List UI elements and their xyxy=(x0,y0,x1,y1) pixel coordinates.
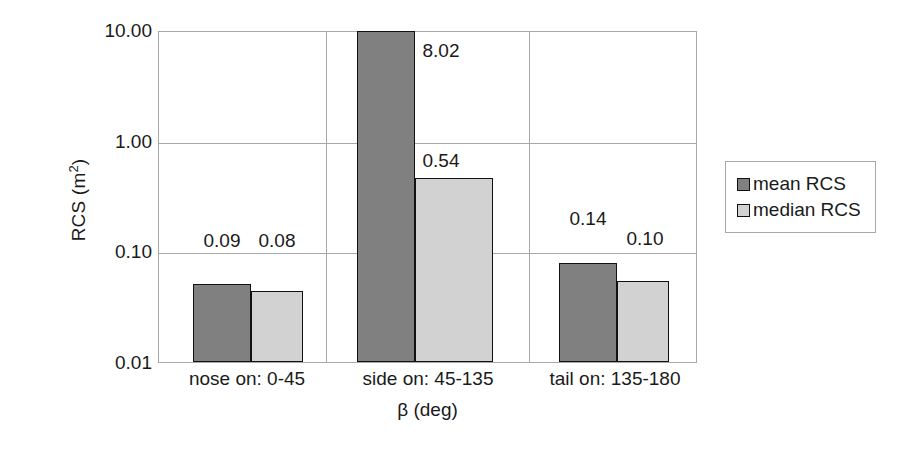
x-tick-label-side-on: side on: 45-135 xyxy=(363,368,494,390)
x-axis-tick-labels: nose on: 0-45 side on: 45-135 tail on: 1… xyxy=(158,368,697,396)
legend-swatch-median-rcs xyxy=(737,204,750,217)
category-divider-1 xyxy=(326,32,327,362)
bar-mean-tail-on[interactable] xyxy=(559,263,617,362)
category-divider-2 xyxy=(529,32,530,362)
x-tick-label-tail-on: tail on: 135-180 xyxy=(550,368,681,390)
legend-label-median-rcs: median RCS xyxy=(753,199,861,221)
bar-label-median-tail-on: 0.10 xyxy=(627,228,664,250)
y-tick-label-1: 1.00 xyxy=(66,131,152,153)
legend-label-mean-rcs: mean RCS xyxy=(753,173,846,195)
bar-mean-nose-on[interactable] xyxy=(193,284,251,362)
gridline-1 xyxy=(159,143,696,144)
legend: mean RCS median RCS xyxy=(725,161,876,233)
bar-median-tail-on[interactable] xyxy=(617,281,669,362)
plot-area: 0.09 0.08 8.02 0.54 0.14 0.10 xyxy=(158,31,697,363)
bar-median-nose-on[interactable] xyxy=(251,291,303,362)
bar-label-median-nose-on: 0.08 xyxy=(259,230,296,252)
rcs-bar-chart: RCS (m2) 10.00 1.00 0.10 0.01 0.09 0.08 … xyxy=(0,0,923,451)
x-axis-title: β (deg) xyxy=(158,399,697,421)
y-tick-label-0-10: 0.10 xyxy=(66,241,152,263)
y-tick-label-10: 10.00 xyxy=(66,20,152,42)
bar-label-mean-side-on: 8.02 xyxy=(423,40,460,62)
y-tick-label-0-01: 0.01 xyxy=(66,352,152,374)
bar-label-median-side-on: 0.54 xyxy=(423,150,460,172)
y-axis-tick-labels: 10.00 1.00 0.10 0.01 xyxy=(56,31,152,363)
bar-label-mean-tail-on: 0.14 xyxy=(570,208,607,230)
x-tick-label-nose-on: nose on: 0-45 xyxy=(189,368,305,390)
bar-median-side-on[interactable] xyxy=(415,178,493,362)
bar-label-mean-nose-on: 0.09 xyxy=(204,230,241,252)
legend-item-median-rcs[interactable]: median RCS xyxy=(737,197,861,223)
legend-swatch-mean-rcs xyxy=(737,178,750,191)
bar-mean-side-on[interactable] xyxy=(357,31,415,362)
legend-item-mean-rcs[interactable]: mean RCS xyxy=(737,171,861,197)
